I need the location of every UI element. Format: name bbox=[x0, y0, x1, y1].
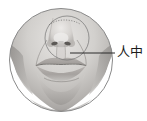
face-region bbox=[0, 0, 147, 121]
philtrum-groove-shadow bbox=[57, 47, 65, 59]
philtrum-figure: 人中 bbox=[0, 0, 147, 121]
callout-label-renzhong: 人中 bbox=[117, 44, 143, 59]
face-illustration-svg bbox=[0, 0, 147, 121]
columella bbox=[58, 41, 64, 47]
